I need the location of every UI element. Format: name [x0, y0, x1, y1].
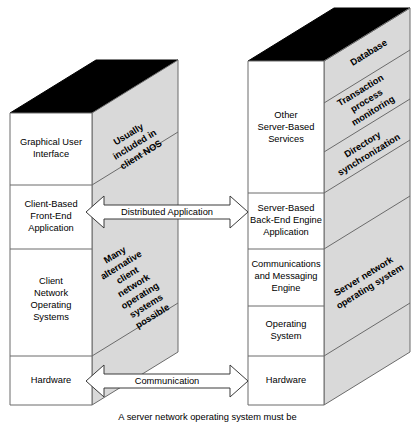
server-layer-comms-line-0: Communications: [251, 259, 321, 269]
server-layer-hardware-line-0: Hardware: [266, 375, 306, 385]
communication-label: Communication: [135, 376, 200, 386]
client-layer-gui-line-1: Interface: [33, 149, 69, 159]
client-layer-nos-line-3: Systems: [33, 312, 69, 322]
server-layer-other-line-1: Server-Based: [258, 122, 315, 132]
server-block: Other Server-Based Services Server-Based…: [248, 8, 410, 405]
client-layer-frontend-app: Client-Based Front-End Application: [24, 199, 77, 233]
server-layer-other-line-0: Other: [274, 110, 297, 120]
client-layer-nos-line-2: Operating: [31, 300, 72, 310]
server-block-side-face: [324, 8, 410, 405]
client-layer-nos-line-1: Network: [34, 288, 68, 298]
client-layer-frontend-line-1: Front-End: [30, 211, 71, 221]
server-layer-os-line-1: System: [271, 331, 302, 341]
server-layer-comms-line-1: and Messaging: [254, 271, 317, 281]
client-layer-nos-line-0: Client: [39, 276, 63, 286]
client-layer-hardware-line-0: Hardware: [31, 375, 71, 385]
server-layer-backend-line-0: Server-Based: [258, 203, 315, 213]
server-layer-backend-line-2: Application: [263, 227, 308, 237]
server-layer-hardware: Hardware: [266, 375, 306, 385]
distributed-application-label: Distributed Application: [121, 207, 213, 217]
client-layer-frontend-line-2: Application: [28, 223, 73, 233]
diagram-root: Graphical User Interface Client-Based Fr…: [0, 0, 415, 426]
server-layer-backend-line-1: Back-End Engine: [250, 215, 322, 225]
server-layer-comms-line-2: Engine: [272, 283, 301, 293]
client-layer-hardware: Hardware: [31, 375, 71, 385]
client-block-side-face: [92, 60, 178, 405]
architecture-diagram: Graphical User Interface Client-Based Fr…: [0, 0, 415, 426]
server-layer-os-line-0: Operating: [266, 319, 307, 329]
server-layer-other-line-2: Services: [268, 134, 304, 144]
figure-caption: A server network operating system must b…: [0, 411, 415, 423]
client-layer-gui-line-0: Graphical User: [20, 137, 82, 147]
client-layer-frontend-line-0: Client-Based: [24, 199, 77, 209]
client-block: Graphical User Interface Client-Based Fr…: [10, 60, 178, 405]
